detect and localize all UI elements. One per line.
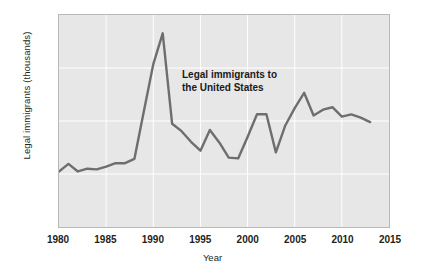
series-annotation-label: Legal immigrants to the United States	[182, 68, 277, 94]
chart-figure: Legal immigrants (thousands) 05001,0001,…	[0, 0, 425, 275]
plot-area	[58, 14, 390, 228]
x-tick-label: 1980	[36, 234, 80, 245]
y-axis-title: Legal immigrants (thousands)	[21, 0, 32, 196]
x-tick-label: 2005	[273, 234, 317, 245]
x-tick-label: 1990	[131, 234, 175, 245]
x-tick-label: 2015	[368, 234, 412, 245]
x-tick-label: 2000	[226, 234, 270, 245]
x-axis-title: Year	[0, 252, 425, 263]
x-tick-label: 1985	[83, 234, 127, 245]
x-tick-label: 1995	[178, 234, 222, 245]
x-tick-label: 2010	[321, 234, 365, 245]
series-line-legal-immigrants	[59, 15, 389, 227]
